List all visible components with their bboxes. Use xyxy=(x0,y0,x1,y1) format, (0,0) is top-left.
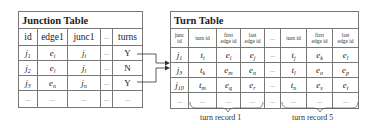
turn-record-1-label: turn record 1 xyxy=(200,113,241,122)
brace-turn-record-1 xyxy=(190,102,263,112)
arrowhead-icon xyxy=(165,61,170,66)
arrow-row3-to-j3 xyxy=(137,68,166,82)
arrowhead-icon xyxy=(165,66,170,71)
brace-turn-record-5 xyxy=(282,102,358,112)
arrow-row1-to-j1 xyxy=(137,54,166,63)
connectors xyxy=(0,0,374,128)
turn-record-5-label: turn record 5 xyxy=(292,113,333,122)
